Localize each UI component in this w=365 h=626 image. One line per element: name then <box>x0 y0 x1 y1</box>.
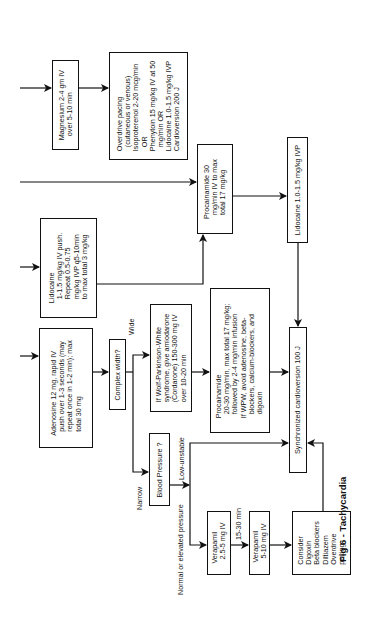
procainamide-20-text: Procainamide 20-30 mg/min, max total 17 … <box>215 303 264 418</box>
lidocaine-ivp-box: Lidocaine 1.0-1.5 mg/kg IVP <box>287 137 308 243</box>
adenosine-text: Adenosine 12 mg, rapid IV push over 1-3 … <box>50 340 83 435</box>
verapamil-2-box: Verapamil 5-10 mg IV <box>249 511 270 575</box>
wpw-text: If Wolf-Parkinson-White syndrome, give a… <box>155 314 188 403</box>
wpw-box: If Wolf-Parkinson-White syndrome, give a… <box>150 304 192 412</box>
narrow-label: Narrow <box>136 487 144 510</box>
lidocaine-push-text: Lidocaine 1-1.5 mg/kg IV push. Repeat 0.… <box>48 233 89 303</box>
adenosine-box: Adenosine 12 mg, rapid IV push over 1-3 … <box>39 328 93 448</box>
magnesium-text: Magnesium 2-4 gm IV over 5-10 min <box>57 70 73 140</box>
interval-label: 15-30 min <box>235 508 243 540</box>
blood-pressure-text: Blood Pressure ? <box>155 442 163 497</box>
complex-width-box: Complex width? <box>109 339 126 410</box>
verapamil-2-text: Verapamil 5-10 mg IV <box>251 523 267 562</box>
normal-elevated-label: Normal or elevated pressure <box>177 504 185 595</box>
overdrive-pacing-text: Overdrive pacing (cutaneous or venous) I… <box>116 61 182 151</box>
blood-pressure-box: Blood Pressure ? <box>149 433 170 506</box>
procainamide-30-box: Procainamide 30 mg/min IV to max total 1… <box>197 144 233 234</box>
sync-cardioversion-box: Synchronized cardioversion 100 J <box>289 327 307 473</box>
lidocaine-ivp-text: Lidocaine 1.0-1.5 mg/kg IVP <box>293 145 301 235</box>
verapamil-1-box: Verapamil 2.5-5 mg IV <box>207 511 231 575</box>
figure-caption: Fig 6 - Tachycardia <box>339 477 347 562</box>
overdrive-pacing-box: Overdrive pacing (cutaneous or venous) I… <box>109 52 188 160</box>
complex-width-text: Complex width? <box>113 349 121 400</box>
wide-label: Wide <box>128 319 136 335</box>
magnesium-box: Magnesium 2-4 gm IV over 5-10 min <box>52 60 79 150</box>
low-unstable-label: Low-unstable <box>178 437 186 480</box>
procainamide-30-text: Procainamide 30 mg/min IV to max total 1… <box>203 159 228 219</box>
procainamide-20-box: Procainamide 20-30 mg/min, max total 17 … <box>210 288 270 433</box>
sync-cardioversion-text: Synchronized cardioversion 100 J <box>294 346 302 454</box>
lidocaine-push-box: Lidocaine 1-1.5 mg/kg IV push. Repeat 0.… <box>40 218 97 318</box>
verapamil-1-text: Verapamil 2.5-5 mg IV <box>211 522 227 563</box>
